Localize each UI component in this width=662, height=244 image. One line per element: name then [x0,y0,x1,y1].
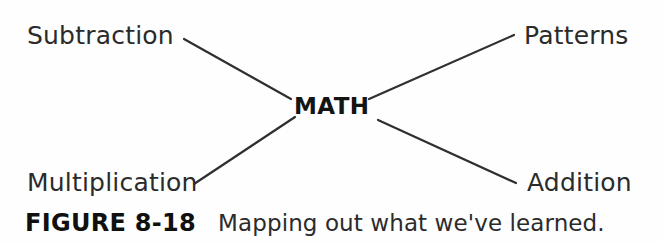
figure-container: Subtraction Patterns Multiplication Addi… [0,0,662,244]
figure-caption-text: Mapping out what we've learned. [218,212,605,235]
figure-number: FIGURE 8-18 [25,211,196,235]
connector-math-multiplication [194,117,295,184]
connector-math-addition [378,120,516,183]
connector-math-patterns [369,35,514,99]
figure-caption: FIGURE 8-18 Mapping out what we've learn… [25,211,605,235]
connector-math-subtraction [184,39,291,99]
node-label-multiplication: Multiplication [27,170,198,195]
node-label-patterns: Patterns [524,23,629,48]
node-label-addition: Addition [527,170,632,195]
node-label-subtraction: Subtraction [27,23,174,48]
node-label-math-center: MATH [294,95,369,118]
